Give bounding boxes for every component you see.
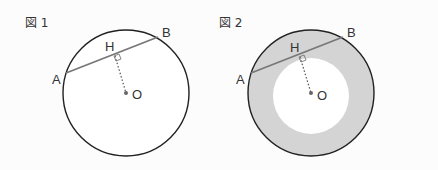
label-h: H [290, 40, 299, 55]
label-b: B [162, 25, 171, 40]
label-a: A [52, 72, 61, 87]
figure-2-title: 図 2 [219, 16, 242, 30]
label-h: H [105, 39, 114, 54]
label-b: B [347, 25, 356, 40]
center-point [309, 91, 313, 95]
label-o: O [132, 87, 142, 102]
figure-1: 図 1 A B H O [25, 16, 189, 156]
inner-circle [273, 58, 349, 134]
label-o: O [317, 88, 327, 103]
figure-1-title: 図 1 [25, 16, 48, 30]
center-point [124, 91, 128, 95]
diagram-canvas: 図 1 A B H O 図 2 A B H O [0, 0, 438, 170]
label-a: A [236, 72, 245, 87]
figure-2: 図 2 A B H O [219, 16, 374, 156]
